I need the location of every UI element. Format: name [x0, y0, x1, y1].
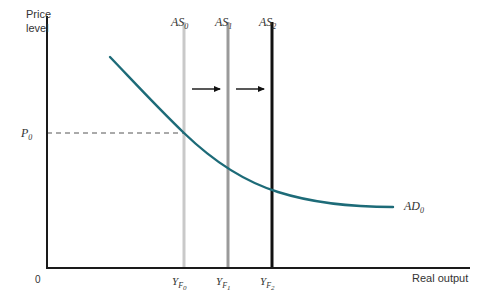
chart-svg: Price level Real output 0 P0 AS0 AS1 AS2… — [0, 0, 486, 299]
y-axis-title-line2: level — [26, 22, 49, 34]
y-axis-title-line1: Price — [26, 8, 51, 20]
as-ad-diagram: Price level Real output 0 P0 AS0 AS1 AS2… — [0, 0, 486, 299]
chart-background — [0, 0, 486, 299]
origin-label: 0 — [35, 274, 41, 285]
x-axis-title: Real output — [412, 272, 468, 284]
